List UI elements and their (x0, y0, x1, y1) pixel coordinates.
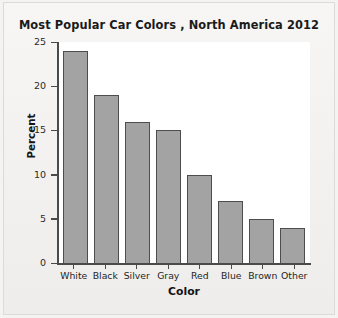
bar-series (58, 42, 310, 263)
x-axis-tick (231, 264, 232, 269)
x-axis-label-other: Other (269, 270, 319, 281)
y-axis-tick (51, 86, 57, 88)
bar-slot (246, 42, 277, 263)
y-axis-tick-label: 0 (6, 257, 46, 268)
y-axis-tick-label: 20 (6, 80, 46, 91)
bar-silver (125, 122, 151, 263)
bar-slot (277, 42, 308, 263)
x-axis-tick (168, 264, 169, 269)
bar-red (187, 175, 213, 263)
chart-title: Most Popular Car Colors , North America … (0, 18, 338, 32)
y-axis-tick-label: 5 (6, 213, 46, 224)
x-axis-tick (199, 264, 200, 269)
y-axis-tick (51, 218, 57, 220)
bar-black (94, 95, 120, 263)
y-axis-tick (51, 42, 57, 44)
bar-white (63, 51, 89, 263)
bar-gray (156, 130, 182, 263)
x-axis-tick (136, 264, 137, 269)
bar-blue (218, 201, 244, 263)
bar-slot (91, 42, 122, 263)
y-axis-tick-label: 15 (6, 124, 46, 135)
plot-area (58, 42, 310, 263)
bar-brown (249, 219, 275, 263)
y-axis-tick (51, 130, 57, 132)
x-axis-tick (105, 264, 106, 269)
y-axis-title: Percent (25, 96, 37, 176)
x-axis-tick (294, 264, 295, 269)
y-axis-tick (51, 174, 57, 176)
y-axis-line (57, 42, 59, 264)
chart-figure: Most Popular Car Colors , North America … (0, 0, 338, 318)
bar-slot (184, 42, 215, 263)
bar-slot (122, 42, 153, 263)
bar-slot (153, 42, 184, 263)
x-axis-line (57, 263, 311, 265)
x-axis-tick (73, 264, 74, 269)
y-axis-tick (51, 263, 57, 265)
y-axis-tick-label: 25 (6, 36, 46, 47)
bar-slot (60, 42, 91, 263)
bar-slot (215, 42, 246, 263)
y-axis-tick-label: 10 (6, 169, 46, 180)
x-axis-tick (262, 264, 263, 269)
x-axis-title: Color (58, 285, 310, 298)
bar-other (280, 228, 306, 263)
